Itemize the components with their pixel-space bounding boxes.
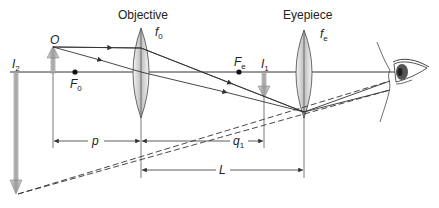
image2-label: I2 [12,57,20,73]
dimension-q1-label: q1 [233,134,245,150]
dimension-p-label: p [91,134,99,148]
eyepiece-focal-label: fe [320,27,328,43]
eyepiece-label: Eyepiece [283,8,333,22]
object-label: O [50,33,59,47]
focal-objective-label: F0 [70,77,82,93]
rays [53,47,390,112]
microscope-diagram: Objective f0 Eyepiece fe O F0 Fe I1 I2 [0,0,439,208]
focal-point-objective [72,69,77,74]
image1-label: I1 [261,57,269,73]
dimension-L-label: L [219,163,226,177]
eyepiece-lens [296,30,312,118]
eye-icon [377,42,429,122]
image2-arrow [10,72,22,194]
objective-label: Objective [118,8,168,22]
virtual-rays [18,81,390,194]
focal-eyepiece-label: Fe [234,55,246,71]
object-arrow [47,46,59,73]
image1-arrow [258,72,270,98]
objective-focal-label: f0 [155,25,163,41]
